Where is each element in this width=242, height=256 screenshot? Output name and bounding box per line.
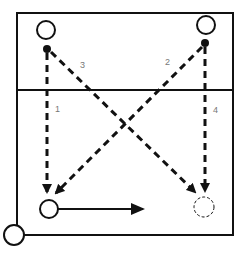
pass-label-1: 1 bbox=[55, 104, 60, 114]
pass-line-3 bbox=[51, 52, 195, 192]
pass-label-3: 3 bbox=[80, 60, 85, 70]
pass-label-2: 2 bbox=[165, 57, 170, 67]
pass-labels: 1234 bbox=[55, 57, 218, 115]
ball-right-icon bbox=[201, 39, 209, 47]
ball-left-icon bbox=[43, 45, 51, 53]
players bbox=[4, 16, 215, 245]
top-left-player-icon bbox=[37, 21, 55, 39]
top-right-player-icon bbox=[197, 16, 215, 34]
pass-label-4: 4 bbox=[213, 105, 218, 115]
play-diagram: 1234 bbox=[0, 0, 242, 256]
bottom-left-player-icon bbox=[40, 200, 58, 218]
corner-player-icon bbox=[4, 225, 24, 245]
balls bbox=[43, 39, 209, 53]
bottom-right-spot-icon bbox=[194, 197, 214, 217]
pass-line-2 bbox=[56, 47, 202, 193]
pass-lines bbox=[47, 47, 205, 193]
